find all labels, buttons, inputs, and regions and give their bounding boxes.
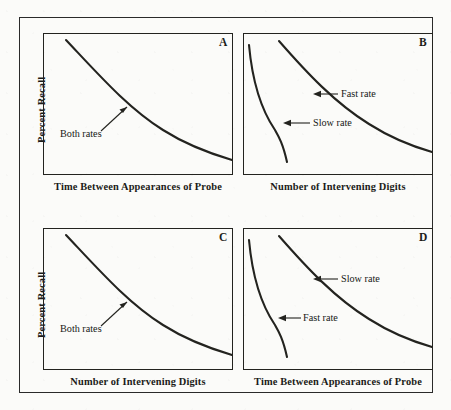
panel-b-x-axis-label: Number of Intervening Digits: [243, 181, 433, 192]
panel-c-plot-box: [43, 228, 233, 370]
panel-b-letter: B: [419, 36, 427, 48]
panel-b: Fast rate Slow rate B Number of Interven…: [235, 0, 451, 200]
panel-a: Percent Recall Both rates A Time Between…: [0, 0, 235, 200]
panel-c: Percent Recall Both rates C Number of In…: [0, 195, 235, 400]
panel-d-letter: D: [419, 231, 428, 243]
panel-a-plot-box: [43, 33, 233, 175]
panel-d-plot-box: [243, 228, 433, 370]
panel-d-annotation-fast-rate: Fast rate: [303, 312, 338, 323]
panel-d-x-axis-label: Time Between Appearances of Probe: [243, 376, 433, 387]
figure-root: Percent Recall Both rates A Time Between…: [0, 0, 451, 410]
panel-d: Slow rate Fast rate D Time Between Appea…: [235, 195, 451, 400]
panel-a-letter: A: [219, 36, 228, 48]
panel-b-plot-box: [243, 33, 433, 175]
panel-c-x-axis-label: Number of Intervening Digits: [43, 376, 233, 387]
panel-a-annotation-both-rates: Both rates: [60, 128, 102, 139]
panel-d-annotation-slow-rate: Slow rate: [341, 273, 380, 284]
panel-b-annotation-slow-rate: Slow rate: [313, 117, 352, 128]
panel-b-annotation-fast-rate: Fast rate: [341, 88, 376, 99]
panel-c-letter: C: [219, 231, 228, 243]
panel-a-x-axis-label: Time Between Appearances of Probe: [43, 181, 233, 192]
panel-c-annotation-both-rates: Both rates: [60, 323, 102, 334]
